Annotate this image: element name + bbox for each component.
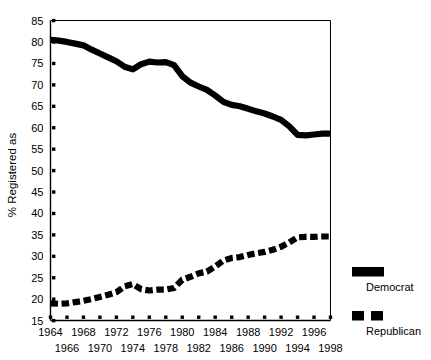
x-tick-label: 1982: [186, 342, 210, 354]
chart-container: 152025303540455055606570758085 196419661…: [0, 0, 431, 360]
legend-label-democrat: Democrat: [366, 281, 414, 293]
y-tick-mark: [52, 83, 55, 86]
y-tick-label: 25: [31, 272, 43, 284]
y-tick-label: 45: [31, 186, 43, 198]
y-axis-ticks: [52, 19, 55, 322]
x-tick-mark: [181, 316, 184, 319]
y-tick-label: 80: [31, 36, 43, 48]
y-axis-title: % Registered as: [6, 133, 18, 218]
x-tick-label: 1980: [170, 326, 194, 338]
y-tick-mark: [52, 233, 55, 236]
y-tick-label: 50: [31, 165, 43, 177]
x-tick-mark: [65, 316, 68, 319]
x-tick-mark: [329, 316, 332, 319]
y-tick-mark: [52, 169, 55, 172]
data-series-layer: [51, 40, 331, 304]
legend-label-republican: Republican: [366, 325, 421, 337]
x-tick-label: 1992: [269, 326, 293, 338]
x-tick-mark: [263, 316, 266, 319]
x-tick-mark: [197, 316, 200, 319]
x-tick-label: 1964: [38, 326, 62, 338]
y-tick-mark: [52, 147, 55, 150]
x-tick-mark: [82, 316, 85, 319]
y-tick-label: 75: [31, 57, 43, 69]
x-axis-ticks: [49, 316, 332, 319]
y-tick-mark: [52, 212, 55, 215]
y-tick-label: 70: [31, 79, 43, 91]
x-tick-label: 1988: [236, 326, 260, 338]
x-tick-label: 1998: [318, 342, 342, 354]
line-chart: 152025303540455055606570758085 196419661…: [0, 0, 431, 360]
x-tick-mark: [98, 316, 101, 319]
x-axis-tick-labels: 1964196619681970197219741976197819801982…: [38, 326, 342, 354]
x-tick-mark: [115, 316, 118, 319]
x-tick-label: 1984: [203, 326, 227, 338]
x-tick-label: 1986: [219, 342, 243, 354]
y-tick-label: 40: [31, 207, 43, 219]
y-tick-label: 20: [31, 293, 43, 305]
x-tick-mark: [164, 316, 167, 319]
y-tick-label: 30: [31, 250, 43, 262]
x-tick-label: 1994: [285, 342, 309, 354]
x-tick-label: 1976: [137, 326, 161, 338]
x-tick-label: 1990: [252, 342, 276, 354]
x-tick-mark: [230, 316, 233, 319]
y-axis-tick-labels: 152025303540455055606570758085: [31, 15, 43, 327]
y-tick-label: 55: [31, 143, 43, 155]
x-tick-mark: [214, 316, 217, 319]
y-tick-mark: [52, 126, 55, 129]
x-tick-label: 1972: [104, 326, 128, 338]
y-tick-label: 65: [31, 100, 43, 112]
chart-legend: DemocratRepublican: [352, 267, 421, 337]
legend-marker-republican-dash-1: [352, 311, 364, 321]
x-tick-label: 1974: [121, 342, 145, 354]
x-tick-mark: [279, 316, 282, 319]
y-tick-label: 85: [31, 15, 43, 27]
y-tick-mark: [52, 105, 55, 108]
y-tick-mark: [52, 319, 55, 322]
y-tick-mark: [52, 62, 55, 65]
y-tick-label: 35: [31, 229, 43, 241]
legend-marker-democrat: [352, 267, 384, 277]
x-tick-label: 1996: [302, 326, 326, 338]
legend-marker-republican-dash-2: [371, 311, 383, 321]
x-tick-mark: [312, 316, 315, 319]
y-tick-mark: [52, 276, 55, 279]
x-tick-label: 1966: [55, 342, 79, 354]
x-tick-label: 1968: [71, 326, 95, 338]
y-tick-label: 60: [31, 122, 43, 134]
y-tick-mark: [52, 255, 55, 258]
x-tick-mark: [131, 316, 134, 319]
x-tick-mark: [49, 316, 52, 319]
x-tick-mark: [246, 316, 249, 319]
series-line-republican: [51, 237, 331, 304]
series-line-democrat: [51, 40, 331, 136]
y-tick-mark: [52, 190, 55, 193]
y-tick-mark: [52, 19, 55, 22]
x-tick-mark: [148, 316, 151, 319]
x-tick-label: 1978: [154, 342, 178, 354]
x-tick-mark: [296, 316, 299, 319]
x-tick-label: 1970: [88, 342, 112, 354]
